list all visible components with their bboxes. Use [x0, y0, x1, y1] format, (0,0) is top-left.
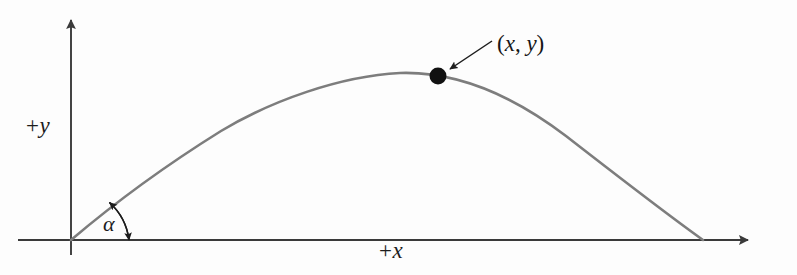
paren-close: )	[537, 31, 545, 56]
figure-canvas	[0, 0, 797, 275]
projectile-trajectory-figure: +y +x (x, y) α	[0, 0, 797, 275]
point-marker-dot	[430, 68, 447, 85]
y-axis-sign: +	[26, 113, 39, 138]
launch-angle-label: α	[103, 211, 115, 237]
x-axis-sign: +	[379, 238, 392, 263]
x-axis-label: +x	[379, 238, 403, 264]
x-axis-variable: x	[392, 238, 403, 263]
trajectory-curve	[71, 73, 703, 240]
point-comma: ,	[515, 31, 527, 56]
point-y-variable: y	[526, 31, 536, 56]
point-leader-line	[450, 41, 492, 69]
y-axis-variable: y	[39, 113, 50, 138]
paren-open: (	[497, 31, 505, 56]
point-x-variable: x	[505, 31, 515, 56]
y-axis-label: +y	[26, 113, 50, 139]
point-coordinate-label: (x, y)	[497, 31, 544, 57]
